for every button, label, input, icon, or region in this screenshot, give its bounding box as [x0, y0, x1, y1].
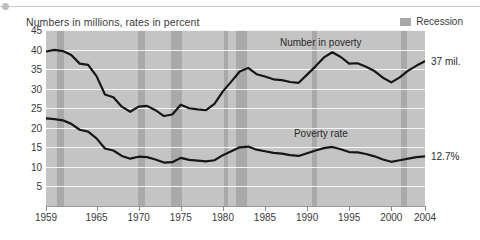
series-line-poverty-rate [46, 118, 425, 162]
y-axis-tick-label: 5 [36, 181, 42, 192]
x-axis-tick-label: 1990 [296, 212, 318, 223]
x-axis-ticks [0, 206, 480, 211]
x-axis-labels: 1959196519701975198019851990199520002004 [0, 212, 480, 228]
series-label-poverty-rate: Poverty rate [294, 128, 348, 139]
top-bullet-icon [2, 3, 9, 10]
x-axis-tick [139, 206, 140, 211]
series-line-number-in-poverty [46, 50, 425, 116]
x-axis-tick-label: 2004 [414, 212, 436, 223]
y-axis-tick-label: 45 [31, 25, 42, 36]
x-axis-tick-label: 1995 [338, 212, 360, 223]
x-axis-tick [46, 206, 47, 211]
x-axis-tick-label: 1959 [35, 212, 57, 223]
x-axis-tick [265, 206, 266, 211]
y-axis-tick-label: 35 [31, 64, 42, 75]
plot-area: Number in poverty Poverty rate [46, 30, 425, 206]
y-axis-tick-label: 40 [31, 44, 42, 55]
x-axis-tick [307, 206, 308, 211]
x-axis-tick-label: 1970 [128, 212, 150, 223]
plot-inner [46, 30, 425, 206]
y-axis-labels: 45403530252015105 [18, 22, 42, 214]
chart-page: Numbers in millions, rates in percent Re… [0, 0, 480, 240]
x-axis-tick [349, 206, 350, 211]
x-axis-tick [181, 206, 182, 211]
x-axis-tick-label: 1985 [254, 212, 276, 223]
x-axis-tick [223, 206, 224, 211]
x-axis-tick-label: 1965 [85, 212, 107, 223]
series-lines [46, 30, 425, 206]
x-axis-tick [97, 206, 98, 211]
legend-label-recession: Recession [416, 16, 463, 27]
x-axis-tick-label: 2000 [380, 212, 402, 223]
y-axis-tick-label: 30 [31, 83, 42, 94]
y-axis-tick-label: 10 [31, 161, 42, 172]
chart-title: Numbers in millions, rates in percent [26, 16, 200, 28]
top-divider [0, 6, 480, 7]
x-axis-tick-label: 1980 [212, 212, 234, 223]
callout-number-in-poverty: 37 mil. [431, 56, 460, 67]
callout-poverty-rate: 12.7% [431, 151, 459, 162]
y-axis-tick-label: 15 [31, 142, 42, 153]
x-axis-tick [391, 206, 392, 211]
y-axis-tick-label: 20 [31, 122, 42, 133]
y-axis-tick-label: 25 [31, 103, 42, 114]
x-axis-tick-label: 1975 [170, 212, 192, 223]
recession-swatch-icon [400, 18, 411, 26]
x-axis-tick [425, 206, 426, 211]
series-label-number-in-poverty: Number in poverty [280, 37, 362, 48]
legend: Recession [400, 16, 463, 27]
